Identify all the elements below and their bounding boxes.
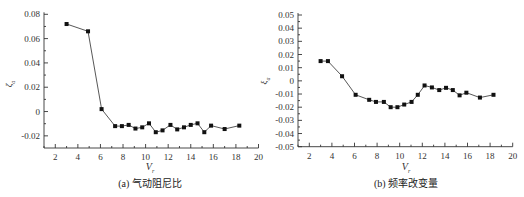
y-tick-label: -0.04 xyxy=(275,129,294,139)
data-point-marker xyxy=(100,107,104,111)
data-point-marker xyxy=(161,128,165,132)
data-point-marker xyxy=(326,59,330,63)
x-tick-label: 10 xyxy=(395,151,405,161)
data-point-marker xyxy=(189,123,193,127)
y-tick-label: 0.04 xyxy=(278,23,294,33)
data-point-marker xyxy=(458,93,462,97)
data-point-marker xyxy=(395,105,399,109)
data-point-marker xyxy=(367,98,371,102)
data-point-marker xyxy=(444,86,448,90)
data-point-marker xyxy=(491,93,495,97)
data-point-marker xyxy=(86,29,90,33)
data-point-marker xyxy=(113,124,117,128)
y-tick-label: 0.02 xyxy=(24,82,40,92)
data-point-marker xyxy=(120,124,124,128)
data-point-marker xyxy=(402,103,406,107)
y-axis-label-left: ζa xyxy=(4,81,16,88)
data-point-marker xyxy=(478,96,482,100)
x-tick-label: 14 xyxy=(440,151,450,161)
y-tick-label: 0.05 xyxy=(278,10,294,20)
data-point-marker xyxy=(354,93,358,97)
data-point-marker xyxy=(410,100,414,104)
y-tick-label: 0.03 xyxy=(278,36,294,46)
y-tick-label: 0.06 xyxy=(24,34,40,44)
data-point-marker xyxy=(451,88,455,92)
y-tick-label: 0 xyxy=(36,107,41,117)
y-tick-label: -0.02 xyxy=(21,131,40,141)
data-point-marker xyxy=(237,124,241,128)
x-tick-label: 16 xyxy=(209,152,219,162)
data-point-marker xyxy=(209,124,213,128)
x-tick-label: 16 xyxy=(463,151,473,161)
chart-figure: 2468101214161820-0.0200.020.040.060.08 2… xyxy=(0,0,524,197)
data-point-marker xyxy=(140,125,144,129)
data-point-marker xyxy=(340,74,344,78)
data-point-marker xyxy=(223,127,227,131)
data-point-marker xyxy=(196,121,200,125)
x-tick-label: 20 xyxy=(254,152,264,162)
x-tick-label: 14 xyxy=(186,152,196,162)
x-tick-label: 6 xyxy=(352,151,357,161)
x-tick-label: 8 xyxy=(121,152,126,162)
data-point-marker xyxy=(319,59,323,63)
x-tick-label: 18 xyxy=(231,152,241,162)
y-tick-label: -0.02 xyxy=(275,102,294,112)
y-tick-label: 0 xyxy=(290,76,295,86)
x-tick-label: 4 xyxy=(76,152,81,162)
x-tick-label: 18 xyxy=(486,151,496,161)
data-point-marker xyxy=(416,93,420,97)
series-line xyxy=(67,24,240,132)
x-tick-label: 20 xyxy=(508,151,518,161)
x-tick-label: 12 xyxy=(164,152,173,162)
x-tick-label: 12 xyxy=(418,151,427,161)
data-point-marker xyxy=(423,83,427,87)
plot-frequency-change: 2468101214161820-0.05-0.04-0.03-0.02-0.0… xyxy=(275,10,517,161)
data-point-marker xyxy=(133,127,137,131)
x-tick-label: 2 xyxy=(53,152,58,162)
x-tick-label: 4 xyxy=(330,151,335,161)
data-point-marker xyxy=(127,123,131,127)
y-tick-label: -0.01 xyxy=(275,89,294,99)
data-point-marker xyxy=(437,88,441,92)
y-tick-label: 0.01 xyxy=(278,63,294,73)
y-axis-label-right: ξa xyxy=(259,78,271,85)
data-point-marker xyxy=(175,127,179,131)
caption-left: (a) 气动阻尼比 xyxy=(118,177,182,190)
data-point-marker xyxy=(182,125,186,129)
y-tick-label: -0.05 xyxy=(275,142,294,152)
caption-right: (b) 频率改变量 xyxy=(374,177,438,190)
x-axis-label-left: Vr xyxy=(146,161,155,174)
data-point-marker xyxy=(430,85,434,89)
data-point-marker xyxy=(65,22,69,26)
x-tick-label: 8 xyxy=(375,151,380,161)
series-line xyxy=(321,61,494,107)
data-point-marker xyxy=(202,130,206,134)
data-point-marker xyxy=(168,123,172,127)
plot-aerodynamic-damping: 2468101214161820-0.0200.020.040.060.08 xyxy=(21,9,263,162)
data-point-marker xyxy=(374,100,378,104)
y-tick-label: 0.08 xyxy=(24,9,40,19)
data-point-marker xyxy=(382,100,386,104)
x-axis-label-right: Vr xyxy=(402,161,411,174)
x-tick-label: 2 xyxy=(307,151,312,161)
y-tick-label: 0.04 xyxy=(24,58,40,68)
data-point-marker xyxy=(147,121,151,125)
y-tick-label: -0.03 xyxy=(275,115,294,125)
data-point-marker xyxy=(154,130,158,134)
x-tick-label: 6 xyxy=(98,152,103,162)
y-tick-label: 0.02 xyxy=(278,50,294,60)
data-point-marker xyxy=(464,91,468,95)
data-point-marker xyxy=(389,105,393,109)
